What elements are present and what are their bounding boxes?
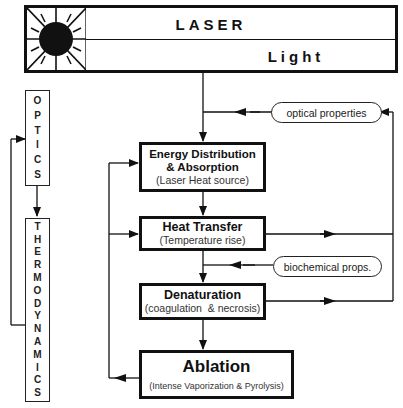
energy-subtitle: (Laser Heat source): [156, 174, 249, 187]
optical-properties-input: optical properties: [271, 102, 382, 123]
thermo-letter: E: [34, 247, 41, 257]
optics-box: O P T I C S: [25, 90, 50, 186]
heat-subtitle: (Temperature rise): [160, 234, 246, 247]
ablation-title: Ablation: [183, 357, 251, 377]
thermo-letter: N: [34, 324, 41, 334]
energy-title-line2: & Absorption: [166, 161, 238, 174]
thermo-letter: R: [34, 260, 41, 270]
thermo-letter: Y: [34, 311, 41, 321]
thermo-letter: D: [34, 299, 41, 309]
thermodynamics-box: T H E R M O D Y N A M I C S: [25, 218, 50, 402]
thermo-letter: M: [33, 273, 41, 283]
optics-letter: S: [34, 170, 41, 180]
heat-transfer-box: Heat Transfer (Temperature rise): [139, 216, 266, 251]
thermo-letter: S: [34, 388, 41, 398]
thermo-letter: I: [36, 363, 39, 373]
denaturation-title: Denaturation: [164, 289, 241, 302]
laser-source-box: LASER Light: [24, 5, 398, 73]
optics-letter: T: [34, 126, 40, 136]
ablation-box: Ablation (Intense Vaporization & Pyrolys…: [139, 350, 294, 399]
light-label: Light: [197, 42, 395, 70]
laser-label: LASER: [67, 10, 355, 38]
optics-letter: O: [34, 96, 42, 106]
thermo-letter: M: [33, 350, 41, 360]
thermo-letter: H: [34, 235, 41, 245]
thermo-letter: A: [34, 337, 41, 347]
denaturation-box: Denaturation (coagulation & necrosis): [139, 283, 266, 320]
denaturation-subtitle: (coagulation & necrosis): [145, 302, 261, 315]
thermo-letter: T: [34, 222, 40, 232]
energy-title-line1: Energy Distribution: [149, 148, 256, 161]
ablation-subtitle: (Intense Vaporization & Pyrolysis): [149, 380, 283, 393]
heat-title: Heat Transfer: [163, 221, 243, 234]
laser-divider: [86, 39, 395, 40]
energy-distribution-box: Energy Distribution & Absorption (Laser …: [139, 142, 266, 192]
thermo-letter: C: [34, 375, 41, 385]
optics-letter: C: [34, 155, 41, 165]
optics-letter: I: [36, 140, 39, 150]
optics-letter: P: [34, 111, 41, 121]
biochemical-props-input: biochemical props.: [273, 256, 382, 277]
thermo-letter: O: [34, 286, 42, 296]
